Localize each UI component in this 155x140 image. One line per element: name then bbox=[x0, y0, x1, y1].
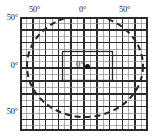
x-axis-tick-label-left: 50° bbox=[29, 5, 40, 14]
y-axis-tick-label-bottom: 50° bbox=[2, 107, 18, 116]
sky-coordinate-grid-figure: 50° 0° 50° 50° 0° 50° 0° bbox=[0, 0, 155, 140]
origin-label: 0° bbox=[76, 60, 84, 69]
y-axis-tick-label-top: 50° bbox=[2, 13, 18, 22]
y-axis-tick-label-middle: 0° bbox=[2, 61, 18, 70]
x-axis-tick-label-center: 0° bbox=[79, 5, 86, 14]
x-axis-tick-label-right: 50° bbox=[119, 5, 130, 14]
overlay-shapes bbox=[20, 17, 148, 131]
plot-area: 0° bbox=[20, 17, 148, 131]
origin-marker-dot bbox=[85, 64, 90, 69]
